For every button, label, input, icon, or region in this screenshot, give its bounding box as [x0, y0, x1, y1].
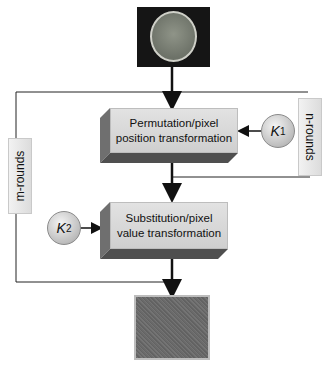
input-image: [137, 7, 210, 67]
m-rounds-box: m-rounds: [8, 138, 32, 214]
permutation-block: Permutation/pixel position transformatio…: [110, 108, 238, 153]
brain-scan-shape: [150, 11, 197, 62]
key1-subscript: 1: [280, 126, 286, 137]
n-rounds-label: n-rounds: [303, 113, 317, 160]
output-image: [134, 295, 210, 360]
substitution-block: Substitution/pixel value transformation: [110, 202, 228, 249]
permutation-line2: position transformation: [116, 131, 232, 146]
key2-subscript: 2: [66, 223, 72, 234]
permutation-line1: Permutation/pixel: [116, 116, 232, 131]
key1-circle: K1: [261, 114, 295, 148]
key1-symbol: K: [271, 123, 280, 139]
m-rounds-label: m-rounds: [13, 151, 27, 202]
substitution-line2: value transformation: [117, 226, 221, 241]
substitution-line1: Substitution/pixel: [117, 211, 221, 226]
n-rounds-box: n-rounds: [298, 98, 322, 176]
key2-symbol: K: [57, 220, 66, 236]
key2-circle: K2: [47, 211, 81, 245]
